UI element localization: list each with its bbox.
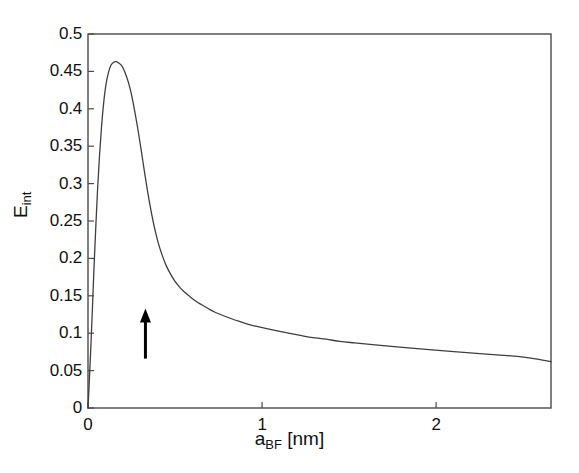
annotation-arrow — [140, 308, 151, 358]
x-axis-label-base: a — [255, 428, 266, 449]
axes-frame — [88, 34, 551, 408]
x-axis-label-subscript: BF — [265, 437, 282, 452]
arrow-head — [140, 308, 151, 322]
y-axis-label-base: E — [10, 205, 31, 218]
y-tick-label: 0 — [73, 398, 82, 418]
figure-canvas: 00.050.10.150.20.250.30.350.40.450.5 012… — [0, 0, 579, 473]
y-tick-label: 0.35 — [50, 136, 82, 156]
y-tick-label: 0.2 — [59, 248, 82, 268]
y-tick-label: 0.5 — [59, 24, 82, 44]
y-axis-label: Eint — [10, 192, 34, 218]
y-tick-label: 0.3 — [59, 174, 82, 194]
up-arrow-marker — [140, 308, 151, 358]
y-tick-label: 0.15 — [50, 286, 82, 306]
y-tick-label: 0.05 — [50, 361, 82, 381]
y-tick-label: 0.45 — [50, 61, 82, 81]
plot-axes-group — [88, 34, 551, 408]
y-tick-label: 0.25 — [50, 211, 82, 231]
x-tick-marks — [88, 402, 436, 408]
y-tick-label: 0.1 — [59, 323, 82, 343]
y-tick-label: 0.4 — [59, 99, 82, 119]
x-axis-label-unit: [nm] — [282, 428, 324, 449]
data-series-line — [88, 62, 551, 408]
y-axis-label-subscript: int — [19, 192, 34, 206]
chart-plot — [0, 0, 579, 473]
x-axis-label: aBF [nm] — [0, 428, 579, 452]
